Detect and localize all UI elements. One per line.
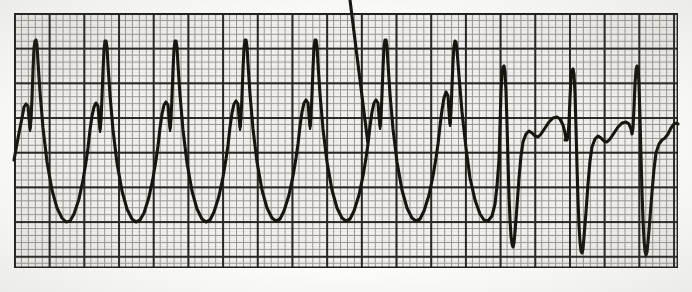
bold-grid bbox=[14, 13, 678, 268]
ecg-rhythm-strip bbox=[0, 0, 692, 292]
ecg-graph-paper bbox=[14, 13, 678, 268]
